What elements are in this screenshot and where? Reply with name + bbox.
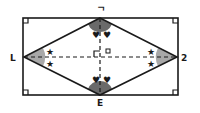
- label-top: ᄀ: [97, 6, 105, 16]
- star-icon: ★: [46, 59, 54, 69]
- heart-icon: ♥: [103, 30, 111, 40]
- star-icon: ★: [46, 47, 54, 57]
- heart-icon: ♥: [103, 75, 111, 85]
- center-right-angle-mark: [94, 51, 100, 57]
- heart-icon: ♥: [92, 30, 100, 40]
- label-left: L: [10, 53, 16, 63]
- star-icon: ★: [147, 47, 155, 57]
- label-bottom: E: [97, 98, 103, 108]
- star-icon: ★: [147, 59, 155, 69]
- heart-icon: ♥: [92, 75, 100, 85]
- center-point-marker: [106, 49, 110, 53]
- geometry-diagram: ♥ ♥ ♥ ♥ ★ ★ ★ ★ ᄀ L 2 E: [0, 0, 200, 113]
- label-right: 2: [181, 53, 187, 63]
